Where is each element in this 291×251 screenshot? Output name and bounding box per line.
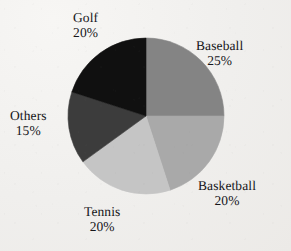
slice-label-golf: Golf 20% <box>73 10 98 40</box>
slice-label-tennis-name: Tennis <box>84 204 120 219</box>
slice-label-tennis-value: 20% <box>84 219 120 234</box>
slice-label-baseball: Baseball 25% <box>196 38 243 68</box>
slice-label-others-name: Others <box>10 108 47 123</box>
slice-label-others-value: 15% <box>10 123 47 138</box>
slice-label-basketball-name: Basketball <box>198 178 256 193</box>
slice-label-basketball-value: 20% <box>198 193 256 208</box>
slice-label-others: Others 15% <box>10 108 47 138</box>
pie-chart-figure: Baseball 25% Basketball 20% Tennis 20% O… <box>0 0 291 251</box>
slice-label-tennis: Tennis 20% <box>84 204 120 234</box>
slice-label-baseball-value: 25% <box>196 53 243 68</box>
slice-label-golf-name: Golf <box>73 10 98 25</box>
slice-label-golf-value: 20% <box>73 25 98 40</box>
slice-label-baseball-name: Baseball <box>196 38 243 53</box>
slice-label-basketball: Basketball 20% <box>198 178 256 208</box>
